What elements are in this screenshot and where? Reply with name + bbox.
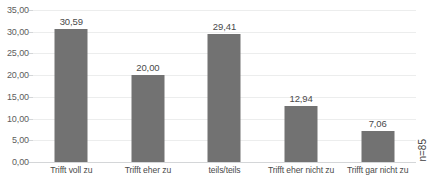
bar-group: 29,41: [186, 10, 263, 162]
bar[interactable]: [55, 29, 88, 162]
bar-group: 20,00: [110, 10, 187, 162]
bar-group: 30,59: [33, 10, 110, 162]
y-tick-label: 5,00: [12, 135, 29, 145]
x-tick-label: Trifft voll zu: [50, 164, 92, 176]
y-tick-label: 0,00: [12, 157, 29, 167]
y-axis: 0,005,0010,0015,0020,0025,0030,0035,00: [0, 10, 29, 162]
bars-layer: 30,5920,0029,4112,947,06: [33, 10, 416, 162]
bar-value-label: 20,00: [136, 62, 159, 73]
bar-value-label: 7,06: [369, 118, 387, 129]
y-tick-label: 35,00: [7, 5, 29, 15]
bar-value-label: 12,94: [289, 93, 312, 104]
bar-value-label: 30,59: [60, 16, 83, 27]
bar-group: 12,94: [263, 10, 340, 162]
y-tick-label: 20,00: [7, 70, 29, 80]
chart-title-cutoff: [0, 0, 431, 7]
x-tick-label: Trifft eher zu: [125, 164, 171, 176]
gridline: [33, 162, 416, 163]
bar[interactable]: [208, 34, 241, 162]
y-tick-label: 25,00: [7, 48, 29, 58]
bar[interactable]: [361, 131, 394, 162]
bar-value-label: 29,41: [213, 21, 236, 32]
bar-chart: 0,005,0010,0015,0020,0025,0030,0035,00 3…: [0, 0, 431, 184]
y-tick-label: 10,00: [7, 114, 29, 124]
y-tick-mark: [29, 162, 33, 163]
bar[interactable]: [285, 106, 318, 162]
x-tick-label: Trifft eher nicht zu: [268, 164, 334, 176]
x-tick-label: teils/teils: [209, 164, 241, 176]
x-axis: Trifft voll zuTrifft eher zuteils/teilsT…: [33, 164, 416, 180]
x-tick-label: Trifft gar nicht zu: [347, 164, 409, 176]
bar-group: 7,06: [339, 10, 416, 162]
y-tick-label: 30,00: [7, 27, 29, 37]
y-tick-label: 15,00: [7, 92, 29, 102]
bar[interactable]: [131, 75, 164, 162]
sample-size-annotation: n=85: [417, 139, 428, 162]
